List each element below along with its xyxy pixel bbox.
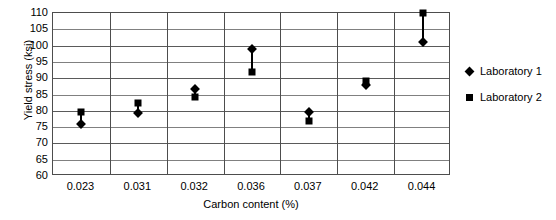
gridline-horizontal [53, 143, 449, 144]
x-axis-title: Carbon content (%) [52, 198, 450, 210]
data-point-marker [78, 109, 85, 116]
y-axis-tick-label: 95 [20, 55, 48, 66]
legend-item[interactable]: Laboratory 2 [466, 84, 556, 110]
data-point-marker [133, 108, 143, 118]
legend-item-label: Laboratory 1 [480, 65, 542, 77]
y-axis-tick-label: 80 [20, 104, 48, 115]
y-axis-tick-label: 70 [20, 137, 48, 148]
square-marker-icon [466, 94, 473, 101]
chart-legend: Laboratory 1Laboratory 2 [466, 58, 556, 110]
plot-area [52, 12, 450, 175]
x-axis-tick-label: 0.032 [180, 180, 208, 192]
data-point-marker [192, 94, 199, 101]
data-point-marker [419, 10, 426, 17]
legend-item-label: Laboratory 2 [480, 91, 542, 103]
gridline-vertical [224, 13, 225, 174]
data-point-marker [249, 68, 256, 75]
y-axis-tick-label: 100 [20, 39, 48, 50]
data-point-marker [135, 99, 142, 106]
data-point-marker [362, 78, 369, 85]
gridline-horizontal [53, 160, 449, 161]
gridline-horizontal [53, 111, 449, 112]
gridline-vertical [337, 13, 338, 174]
y-axis-tick-labels: 1101051009590858075706560 [20, 6, 48, 181]
x-axis-tick-label: 0.042 [351, 180, 379, 192]
gridline-vertical [394, 13, 395, 174]
yield-stress-scatter-chart: Yield stress (ksi) 110105100959085807570… [0, 0, 556, 220]
y-axis-tick-label: 110 [20, 7, 48, 18]
y-axis-tick-label: 85 [20, 88, 48, 99]
y-axis-tick-label: 75 [20, 121, 48, 132]
data-point-marker [305, 117, 312, 124]
y-axis-tick-label: 65 [20, 153, 48, 164]
gridline-horizontal [53, 29, 449, 30]
x-axis-tick-label: 0.036 [237, 180, 265, 192]
data-point-marker [190, 84, 200, 94]
legend-item[interactable]: Laboratory 1 [466, 58, 556, 84]
x-axis-tick-labels: 0.0230.0310.0320.0360.0370.0420.044 [52, 180, 450, 196]
x-axis-tick-label: 0.044 [408, 180, 436, 192]
gridline-vertical [280, 13, 281, 174]
x-axis-tick-label: 0.037 [294, 180, 322, 192]
gridline-vertical [167, 13, 168, 174]
x-axis-tick-label: 0.023 [67, 180, 95, 192]
data-point-marker [304, 107, 314, 117]
y-axis-tick-label: 90 [20, 72, 48, 83]
gridline-vertical [110, 13, 111, 174]
gridline-horizontal [53, 127, 449, 128]
diamond-marker-icon [465, 66, 475, 76]
y-axis-tick-label: 105 [20, 23, 48, 34]
y-axis-tick-label: 60 [20, 170, 48, 181]
gridline-horizontal [53, 95, 449, 96]
gridline-horizontal [53, 78, 449, 79]
x-axis-tick-label: 0.031 [124, 180, 152, 192]
